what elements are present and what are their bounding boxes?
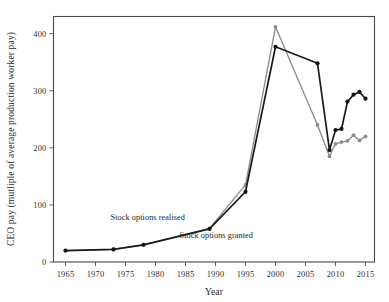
data-point <box>364 135 368 139</box>
x-tick-label: 2010 <box>327 270 345 279</box>
data-point <box>351 93 355 97</box>
x-tick-label: 1980 <box>147 270 165 279</box>
series-annotation-label: Stock options granted <box>180 231 254 240</box>
y-tick-label: 200 <box>33 144 46 153</box>
x-tick-label: 2005 <box>297 270 315 279</box>
data-point <box>339 127 343 131</box>
data-point <box>327 148 331 152</box>
data-point <box>357 90 361 94</box>
y-tick-label: 400 <box>33 30 46 39</box>
x-tick-label: 1990 <box>207 270 225 279</box>
x-tick-label: 1985 <box>177 270 195 279</box>
x-tick-label: 2000 <box>267 270 285 279</box>
data-point <box>273 45 277 49</box>
data-point <box>328 154 332 158</box>
data-point <box>340 140 344 144</box>
data-point <box>352 133 356 137</box>
x-tick-label: 1995 <box>237 270 255 279</box>
x-tick-label: 1970 <box>87 270 105 279</box>
x-tick-label: 1975 <box>117 270 135 279</box>
data-point <box>274 25 278 29</box>
x-axis-title: Year <box>205 287 224 297</box>
y-tick-label: 300 <box>33 87 46 96</box>
chart-container: 0100200300400 19651970197519801985199019… <box>0 0 389 302</box>
data-point <box>346 139 350 143</box>
ceo-pay-line-chart: 0100200300400 19651970197519801985199019… <box>0 0 389 302</box>
data-point <box>334 142 338 146</box>
data-point <box>315 61 319 65</box>
series-annotation-label: Stock options realised <box>111 213 186 222</box>
data-point <box>111 247 115 251</box>
x-tick-label: 1965 <box>57 270 75 279</box>
data-point <box>358 138 362 142</box>
x-tick-label: 2015 <box>357 270 375 279</box>
y-tick-label: 100 <box>33 201 46 210</box>
y-axis-title: CEO pay (mutliple of average production … <box>6 32 17 246</box>
data-point <box>345 99 349 103</box>
data-point <box>316 123 320 127</box>
data-point <box>141 243 145 247</box>
data-point <box>63 248 67 252</box>
y-tick-label: 0 <box>42 258 46 267</box>
data-point <box>363 97 367 101</box>
data-point <box>333 128 337 132</box>
data-point <box>243 190 247 194</box>
